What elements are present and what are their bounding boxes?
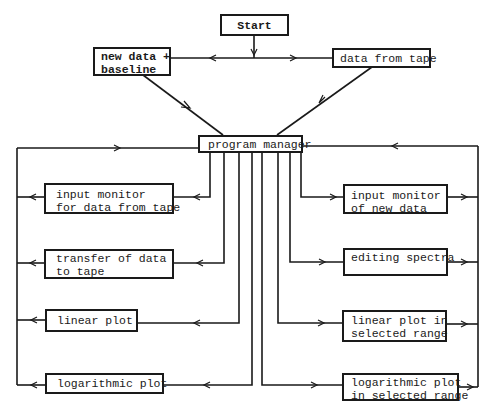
linear-plot-node: linear plot xyxy=(45,309,138,332)
input-monitor-new-node: input monitor of new data xyxy=(343,184,448,214)
logarithmic-plot-node: logarithmic plot xyxy=(45,373,164,394)
linear-plot-range-node: linear plot in selected range xyxy=(342,310,447,342)
flowchart: Start new data + baseline data from tape… xyxy=(0,0,493,413)
editing-spectra-node: editing spectra xyxy=(343,248,448,276)
transfer-to-tape-node: transfer of data to tape xyxy=(44,249,174,279)
new-data-baseline-node: new data + baseline xyxy=(93,47,171,76)
input-monitor-tape-node: input monitor for data from tape xyxy=(44,183,174,214)
start-node: Start xyxy=(220,14,289,36)
program-manager-node: program manager xyxy=(198,135,303,153)
data-from-tape-node: data from tape xyxy=(332,48,431,68)
logarithmic-plot-range-node: logarithmic plot in selected range xyxy=(342,373,459,401)
